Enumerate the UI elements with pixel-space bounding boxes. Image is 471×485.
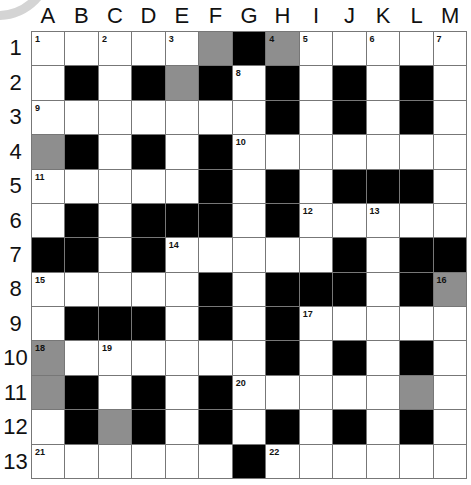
grid-cell[interactable] [367, 445, 399, 478]
grid-cell[interactable] [65, 273, 97, 306]
grid-cell[interactable] [333, 32, 365, 65]
grid-cell[interactable] [434, 376, 466, 409]
grid-cell[interactable] [199, 341, 231, 374]
grid-cell[interactable] [166, 376, 198, 409]
grid-cell[interactable] [400, 445, 432, 478]
grid-cell[interactable] [300, 170, 332, 203]
grid-cell[interactable] [132, 341, 164, 374]
grid-cell[interactable] [400, 32, 432, 65]
grid-cell[interactable] [333, 204, 365, 237]
grid-cell[interactable] [32, 307, 64, 340]
grid-cell[interactable] [367, 376, 399, 409]
grid-cell[interactable] [199, 101, 231, 134]
shaded-cell[interactable] [400, 376, 432, 409]
grid-cell[interactable] [99, 170, 131, 203]
grid-cell[interactable]: 8 [233, 66, 265, 99]
grid-cell[interactable] [99, 204, 131, 237]
grid-cell[interactable] [132, 170, 164, 203]
grid-cell[interactable] [132, 273, 164, 306]
grid-cell[interactable] [300, 341, 332, 374]
grid-cell[interactable] [434, 445, 466, 478]
grid-cell[interactable] [99, 238, 131, 271]
grid-cell[interactable] [166, 410, 198, 443]
grid-cell[interactable] [400, 307, 432, 340]
grid-cell[interactable] [233, 410, 265, 443]
grid-cell[interactable] [132, 101, 164, 134]
grid-cell[interactable] [434, 170, 466, 203]
grid-cell[interactable] [367, 135, 399, 168]
grid-cell[interactable] [233, 273, 265, 306]
grid-cell[interactable] [266, 135, 298, 168]
grid-cell[interactable] [400, 204, 432, 237]
grid-cell[interactable] [300, 135, 332, 168]
grid-cell[interactable] [367, 238, 399, 271]
grid-cell[interactable]: 10 [233, 135, 265, 168]
shaded-cell[interactable] [199, 32, 231, 65]
grid-cell[interactable] [333, 445, 365, 478]
grid-cell[interactable] [99, 376, 131, 409]
grid-cell[interactable] [99, 101, 131, 134]
grid-cell[interactable] [166, 101, 198, 134]
grid-cell[interactable] [434, 341, 466, 374]
grid-cell[interactable]: 1 [32, 32, 64, 65]
shaded-cell[interactable] [99, 410, 131, 443]
grid-cell[interactable]: 21 [32, 445, 64, 478]
grid-cell[interactable]: 2 [99, 32, 131, 65]
grid-cell[interactable] [300, 66, 332, 99]
grid-cell[interactable] [333, 376, 365, 409]
grid-cell[interactable] [99, 445, 131, 478]
grid-cell[interactable] [99, 66, 131, 99]
shaded-cell[interactable] [166, 66, 198, 99]
grid-cell[interactable] [367, 410, 399, 443]
grid-cell[interactable]: 12 [300, 204, 332, 237]
grid-cell[interactable] [166, 170, 198, 203]
grid-cell[interactable] [367, 341, 399, 374]
grid-cell[interactable] [266, 238, 298, 271]
grid-cell[interactable] [199, 445, 231, 478]
shaded-cell[interactable]: 18 [32, 341, 64, 374]
grid-cell[interactable] [434, 101, 466, 134]
grid-cell[interactable] [300, 238, 332, 271]
grid-cell[interactable] [166, 307, 198, 340]
grid-cell[interactable] [367, 307, 399, 340]
grid-cell[interactable] [99, 273, 131, 306]
grid-cell[interactable] [233, 170, 265, 203]
grid-cell[interactable] [65, 32, 97, 65]
grid-cell[interactable]: 11 [32, 170, 64, 203]
grid-cell[interactable]: 9 [32, 101, 64, 134]
grid-cell[interactable] [132, 32, 164, 65]
grid-cell[interactable] [65, 101, 97, 134]
grid-cell[interactable]: 20 [233, 376, 265, 409]
grid-cell[interactable]: 3 [166, 32, 198, 65]
grid-cell[interactable] [166, 273, 198, 306]
grid-cell[interactable] [300, 445, 332, 478]
grid-cell[interactable] [166, 341, 198, 374]
grid-cell[interactable] [434, 410, 466, 443]
grid-cell[interactable]: 6 [367, 32, 399, 65]
grid-cell[interactable] [266, 376, 298, 409]
grid-cell[interactable]: 13 [367, 204, 399, 237]
grid-cell[interactable] [166, 135, 198, 168]
grid-cell[interactable] [233, 341, 265, 374]
grid-cell[interactable] [434, 135, 466, 168]
grid-cell[interactable] [233, 307, 265, 340]
shaded-cell[interactable] [32, 135, 64, 168]
grid-cell[interactable] [65, 170, 97, 203]
grid-cell[interactable] [32, 66, 64, 99]
grid-cell[interactable] [233, 101, 265, 134]
grid-cell[interactable] [199, 238, 231, 271]
grid-cell[interactable]: 17 [300, 307, 332, 340]
grid-cell[interactable] [233, 238, 265, 271]
grid-cell[interactable]: 5 [300, 32, 332, 65]
grid-cell[interactable] [434, 307, 466, 340]
shaded-cell[interactable]: 16 [434, 273, 466, 306]
grid-cell[interactable]: 7 [434, 32, 466, 65]
grid-cell[interactable] [434, 66, 466, 99]
grid-cell[interactable]: 22 [266, 445, 298, 478]
grid-cell[interactable] [99, 135, 131, 168]
grid-cell[interactable] [32, 204, 64, 237]
grid-cell[interactable] [367, 273, 399, 306]
shaded-cell[interactable] [32, 376, 64, 409]
shaded-cell[interactable]: 4 [266, 32, 298, 65]
grid-cell[interactable] [300, 376, 332, 409]
